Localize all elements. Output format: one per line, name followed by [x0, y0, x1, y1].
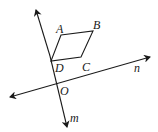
line-n-left [10, 77, 80, 97]
line-m [36, 10, 50, 56]
label-c: C [82, 60, 91, 74]
label-o: O [60, 84, 69, 98]
label-m: m [70, 111, 79, 125]
geometry-diagram: A B C D O m n [0, 0, 158, 132]
label-b: B [93, 18, 101, 32]
label-a: A [55, 22, 64, 36]
label-n: n [134, 61, 140, 75]
label-d: D [54, 61, 64, 75]
